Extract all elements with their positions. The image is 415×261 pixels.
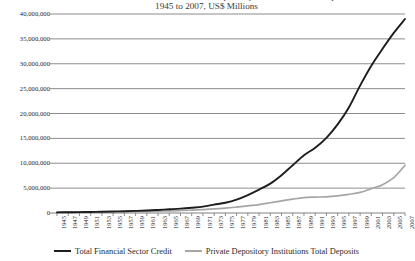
x-axis-tick-label: 1997 [351, 216, 358, 229]
chart-title-subtitle: 1945 to 2007, US$ Millions [0, 1, 413, 11]
x-axis-tick-label: 1999 [363, 216, 370, 229]
x-axis-tick-label: 1969 [194, 216, 201, 229]
x-axis-tick-label: 1977 [239, 216, 246, 229]
y-axis-tick-label: 25,000,000 [0, 85, 50, 92]
plot-svg [57, 14, 405, 213]
x-axis-tick-label: 1987 [295, 216, 302, 229]
x-axis-tick-label: 1945 [60, 216, 67, 229]
legend-label: Total Financial Sector Credit [75, 247, 172, 256]
x-axis-tick-label: 1983 [273, 216, 280, 229]
x-axis-tick-label: 1953 [105, 216, 112, 229]
y-axis-tick-label: 30,000,000 [0, 60, 50, 67]
x-axis-tick-label: 1973 [217, 216, 224, 229]
x-axis-tick-label: 1961 [149, 216, 156, 229]
x-axis-tick-label: 1965 [172, 216, 179, 229]
x-axis: 1945194719491951195319551957195919611963… [57, 216, 405, 246]
legend-label: Private Depository Institutions Total De… [206, 247, 359, 256]
x-axis-tick-label: 1947 [71, 216, 78, 229]
x-axis-tick-label: 1957 [127, 216, 134, 229]
chart-legend: Total Financial Sector CreditPrivate Dep… [0, 243, 413, 259]
y-axis-tick-label: 15,000,000 [0, 134, 50, 141]
y-axis-tick-label: 5,000,000 [0, 184, 50, 191]
x-axis-tick-label: 1985 [284, 216, 291, 229]
series-line-private-depository-institutions-total-deposits [57, 165, 405, 212]
y-axis-tick-label: 10,000,000 [0, 159, 50, 166]
legend-entry[interactable]: Private Depository Institutions Total De… [185, 247, 359, 256]
y-axis-tick-label: 20,000,000 [0, 110, 50, 117]
x-axis-tick-label: 1989 [307, 216, 314, 229]
x-axis-tick-label: 1981 [262, 216, 269, 229]
series-line-total-financial-sector-credit [57, 19, 405, 212]
x-axis-tick-label: 1993 [329, 216, 336, 229]
y-axis: 40,000,00035,000,00030,000,00025,000,000… [0, 0, 50, 261]
x-axis-tick-label: 1963 [161, 216, 168, 229]
x-axis-tick-label: 1949 [82, 216, 89, 229]
x-axis-tick-label: 1959 [138, 216, 145, 229]
gridlines [50, 14, 405, 213]
legend-entry[interactable]: Total Financial Sector Credit [54, 247, 172, 256]
y-axis-tick-label: 0 [0, 209, 50, 216]
x-axis-tick-label: 1967 [183, 216, 190, 229]
y-axis-tick-label: 35,000,000 [0, 35, 50, 42]
x-axis-tick-label: 2003 [385, 216, 392, 229]
chart-title: Total Financial Sector Credit and Privat… [0, 0, 413, 11]
x-axis-tick-label: 1955 [116, 216, 123, 229]
x-axis-tick-label: 1951 [93, 216, 100, 229]
x-axis-tick-label: 2007 [408, 216, 415, 229]
legend-swatch-gray-line-icon [185, 250, 202, 252]
y-axis-tick-label: 40,000,000 [0, 10, 50, 17]
x-axis-tick-label: 1991 [318, 216, 325, 229]
plot-area [57, 14, 405, 213]
x-axis-tick-label: 1979 [250, 216, 257, 229]
x-axis-tick-label: 2005 [396, 216, 403, 229]
x-axis-tick-label: 1995 [340, 216, 347, 229]
x-axis-tick-label: 1971 [206, 216, 213, 229]
legend-swatch-black-line-icon [54, 250, 71, 252]
x-axis-tick-label: 1975 [228, 216, 235, 229]
x-axis-tick-label: 2001 [374, 216, 381, 229]
data-series-group [57, 19, 405, 212]
